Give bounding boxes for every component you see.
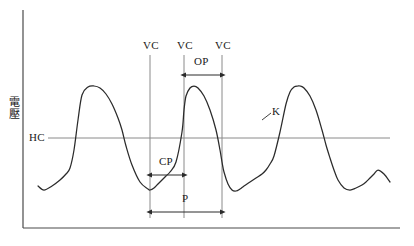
- waveform-plot: [0, 0, 414, 246]
- cp-label: CP: [159, 156, 173, 167]
- p-label: P: [182, 193, 188, 204]
- hc-label: HC: [29, 132, 45, 143]
- y-axis-label: 電壓: [4, 96, 20, 120]
- figure-container: 電壓 VC VC VC HC OP CP P K: [0, 0, 414, 246]
- vc-label-1: VC: [143, 40, 159, 51]
- k-label: K: [272, 106, 280, 117]
- vc-label-3: VC: [215, 40, 231, 51]
- k-pointer-line: [262, 113, 271, 120]
- op-label: OP: [194, 56, 208, 67]
- vc-label-2: VC: [177, 40, 193, 51]
- axes: [23, 10, 400, 228]
